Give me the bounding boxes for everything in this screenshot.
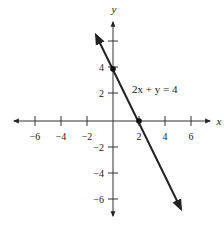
x-tick-label: 4 [163,131,168,142]
x-tick-label: 2 [137,131,142,142]
y-tick-label: 4 [99,62,104,73]
x-tick-label: −2 [82,131,93,142]
x-tick-label: −6 [30,131,41,142]
x-tick-label: −4 [56,131,67,142]
graph-figure: −6 −4 −2 2 4 6 4 2 −2 −4 −6 y x 2x + y =… [0,0,224,225]
x-axis-label: x [216,115,222,127]
y-tick-label: −4 [93,168,104,179]
x-intercept-point [136,118,142,124]
y-axis-label: y [111,3,117,15]
y-tick-label: 2 [99,88,104,99]
y-tick-label: −2 [93,142,104,153]
x-tick-label: 6 [189,131,194,142]
y-intercept-point [110,66,116,72]
equation-label: 2x + y = 4 [132,83,178,95]
y-tick-label: −6 [93,194,104,205]
